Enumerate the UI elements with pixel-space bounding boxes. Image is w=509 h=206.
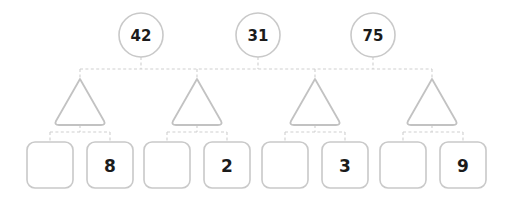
tree-diagram: 42 31 75 8 <box>0 0 509 206</box>
circle-node-2[interactable]: 31 <box>236 13 280 57</box>
circle-node-3-label: 75 <box>363 27 384 45</box>
box-node-4-label: 2 <box>221 156 233 176</box>
box-shape <box>262 142 308 188</box>
box-node-7[interactable] <box>380 142 426 188</box>
top-connector-group <box>80 57 432 80</box>
triangle-shape <box>172 79 221 125</box>
middle-connector-group <box>50 125 463 142</box>
box-node-8[interactable]: 9 <box>440 142 486 188</box>
circle-node-1[interactable]: 42 <box>119 13 163 57</box>
box-node-6[interactable]: 3 <box>322 142 368 188</box>
triangle-node-3[interactable] <box>290 79 339 125</box>
circle-node-2-label: 31 <box>248 27 269 45</box>
box-node-5[interactable] <box>262 142 308 188</box>
triangle-shape <box>407 79 456 125</box>
box-node-3[interactable] <box>144 142 190 188</box>
circle-node-3[interactable]: 75 <box>351 13 395 57</box>
box-shape <box>27 142 73 188</box>
box-node-2-label: 8 <box>104 156 116 176</box>
box-node-2[interactable]: 8 <box>87 142 133 188</box>
triangle-shape <box>55 79 104 125</box>
triangle-node-4[interactable] <box>407 79 456 125</box>
box-node-1[interactable] <box>27 142 73 188</box>
box-shape <box>380 142 426 188</box>
triangle-shape <box>290 79 339 125</box>
triangle-node-2[interactable] <box>172 79 221 125</box>
circle-node-1-label: 42 <box>131 27 152 45</box>
box-node-6-label: 3 <box>339 156 351 176</box>
box-shape <box>144 142 190 188</box>
box-node-4[interactable]: 2 <box>204 142 250 188</box>
triangle-node-1[interactable] <box>55 79 104 125</box>
diagram-canvas: 42 31 75 8 <box>0 0 509 206</box>
box-node-8-label: 9 <box>457 156 469 176</box>
